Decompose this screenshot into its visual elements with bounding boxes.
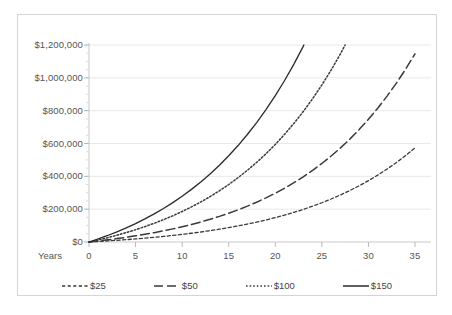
legend-item-100[interactable]: $100 [246, 280, 295, 291]
series-line-50 [89, 54, 415, 242]
x-tick-label: 5 [121, 250, 151, 261]
x-tick-label: 30 [353, 250, 383, 261]
legend-item-50[interactable]: $50 [154, 280, 198, 291]
gridlines [89, 45, 431, 209]
y-tick-label: $1,000,000 [15, 72, 83, 83]
y-tick-label: $0 [15, 236, 83, 247]
legend-swatch-25 [62, 281, 88, 290]
x-tick-label: 20 [260, 250, 290, 261]
legend-swatch-100 [246, 281, 272, 290]
legend-label: $100 [274, 280, 295, 291]
chart-container: $0$200,000$400,000$600,000$800,000$1,000… [17, 14, 437, 296]
x-tick-label: 35 [400, 250, 430, 261]
x-axis-ticks [89, 242, 415, 247]
x-tick-label: 15 [214, 250, 244, 261]
legend-item-25[interactable]: $25 [62, 280, 106, 291]
x-tick-label: 25 [307, 250, 337, 261]
y-axis-ticks [84, 45, 89, 242]
series-line-25 [89, 148, 415, 242]
x-axis-title: Years [38, 250, 62, 261]
legend-label: $50 [182, 280, 198, 291]
x-tick-label: 0 [74, 250, 104, 261]
y-tick-label: $800,000 [15, 105, 83, 116]
x-tick-label: 10 [167, 250, 197, 261]
legend-label: $25 [90, 280, 106, 291]
legend-item-150[interactable]: $150 [343, 280, 392, 291]
legend-label: $150 [371, 280, 392, 291]
legend-swatch-150 [343, 281, 369, 290]
chart-legend: $25$50$100$150 [17, 276, 437, 294]
y-tick-label: $400,000 [15, 170, 83, 181]
legend-swatch-50 [154, 281, 180, 290]
y-tick-label: $200,000 [15, 203, 83, 214]
y-tick-label: $600,000 [15, 138, 83, 149]
y-tick-label: $1,200,000 [15, 39, 83, 50]
axis-lines [89, 43, 431, 242]
